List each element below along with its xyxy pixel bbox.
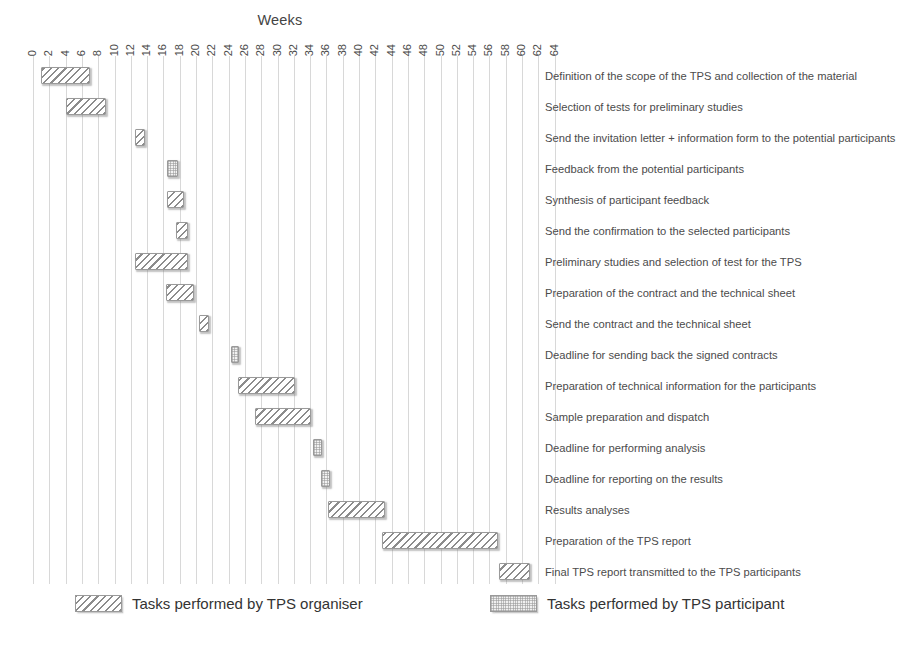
gridline-week-24 bbox=[229, 56, 230, 584]
legend-item-participant[interactable]: Tasks performed by TPS participant bbox=[490, 595, 784, 612]
x-axis-tick-16: 16 bbox=[157, 44, 168, 56]
gantt-bar[interactable] bbox=[167, 191, 183, 208]
task-label: Results analyses bbox=[545, 505, 630, 516]
gridline-week-12 bbox=[131, 56, 132, 584]
gantt-bar[interactable] bbox=[321, 470, 330, 487]
gridline-week-6 bbox=[82, 56, 83, 584]
task-label: Send the invitation letter + information… bbox=[545, 133, 895, 144]
gridline-week-58 bbox=[506, 56, 507, 584]
task-label: Preliminary studies and selection of tes… bbox=[545, 257, 802, 268]
gridline-week-30 bbox=[278, 56, 279, 584]
legend-swatch-participant bbox=[490, 595, 537, 612]
x-axis-tick-64: 64 bbox=[549, 44, 560, 56]
plot-area bbox=[0, 56, 560, 584]
x-axis-tick-40: 40 bbox=[353, 44, 364, 56]
task-label: Sample preparation and dispatch bbox=[545, 412, 709, 423]
gridline-week-54 bbox=[473, 56, 474, 584]
x-axis-tick-12: 12 bbox=[125, 44, 136, 56]
gridline-week-14 bbox=[147, 56, 148, 584]
x-axis-tick-10: 10 bbox=[109, 44, 120, 56]
x-axis-tick-50: 50 bbox=[435, 44, 446, 56]
gridline-week-2 bbox=[49, 56, 50, 584]
task-label: Send the confirmation to the selected pa… bbox=[545, 226, 790, 237]
x-axis-tick-labels: 0246810121416182022242628303234363840424… bbox=[0, 30, 560, 56]
gridline-week-18 bbox=[180, 56, 181, 584]
chart-title: Weeks bbox=[0, 12, 560, 28]
x-axis-tick-48: 48 bbox=[418, 44, 429, 56]
x-axis-tick-62: 62 bbox=[532, 44, 543, 56]
gantt-bar[interactable] bbox=[41, 67, 90, 84]
gridline-week-22 bbox=[212, 56, 213, 584]
gridline-week-62 bbox=[538, 56, 539, 584]
legend-item-organiser[interactable]: Tasks performed by TPS organiser bbox=[75, 595, 363, 612]
x-axis-tick-32: 32 bbox=[288, 44, 299, 56]
x-axis-tick-44: 44 bbox=[386, 44, 397, 56]
task-label: Synthesis of participant feedback bbox=[545, 195, 709, 206]
gridline-week-46 bbox=[408, 56, 409, 584]
gantt-bar[interactable] bbox=[166, 284, 195, 301]
gantt-bar[interactable] bbox=[231, 346, 239, 363]
task-label: Preparation of the contract and the tech… bbox=[545, 288, 795, 299]
gantt-bar[interactable] bbox=[135, 129, 146, 146]
gridline-week-8 bbox=[98, 56, 99, 584]
gantt-bar[interactable] bbox=[255, 408, 310, 425]
task-label: Send the contract and the technical shee… bbox=[545, 319, 751, 330]
gridline-week-0 bbox=[33, 56, 34, 584]
task-label: Deadline for performing analysis bbox=[545, 443, 705, 454]
gantt-bar[interactable] bbox=[176, 222, 188, 239]
x-axis-tick-58: 58 bbox=[500, 44, 511, 56]
gridline-week-32 bbox=[294, 56, 295, 584]
x-axis-tick-34: 34 bbox=[304, 44, 315, 56]
task-label: Final TPS report transmitted to the TPS … bbox=[545, 567, 801, 578]
task-label: Selection of tests for preliminary studi… bbox=[545, 102, 743, 113]
gridline-week-34 bbox=[310, 56, 311, 584]
x-axis-tick-42: 42 bbox=[369, 44, 380, 56]
gridline-week-4 bbox=[66, 56, 67, 584]
legend-swatch-organiser bbox=[75, 595, 122, 612]
gantt-bar[interactable] bbox=[167, 160, 178, 177]
gridline-week-16 bbox=[163, 56, 164, 584]
x-axis-tick-20: 20 bbox=[190, 44, 201, 56]
x-axis-tick-52: 52 bbox=[451, 44, 462, 56]
gantt-chart: Weeks 0246810121416182022242628303234363… bbox=[0, 0, 916, 651]
gridline-week-26 bbox=[245, 56, 246, 584]
x-axis-tick-38: 38 bbox=[337, 44, 348, 56]
x-axis-tick-18: 18 bbox=[174, 44, 185, 56]
gantt-bar[interactable] bbox=[66, 98, 107, 115]
task-label: Deadline for sending back the signed con… bbox=[545, 350, 778, 361]
legend-label: Tasks performed by TPS participant bbox=[547, 595, 784, 612]
chart-legend: Tasks performed by TPS organiserTasks pe… bbox=[0, 595, 916, 629]
gridline-week-28 bbox=[261, 56, 262, 584]
task-label: Deadline for reporting on the results bbox=[545, 474, 723, 485]
x-axis-tick-28: 28 bbox=[255, 44, 266, 56]
x-axis-tick-60: 60 bbox=[516, 44, 527, 56]
gantt-bar[interactable] bbox=[238, 377, 295, 394]
gridline-week-20 bbox=[196, 56, 197, 584]
x-axis-tick-24: 24 bbox=[223, 44, 234, 56]
x-axis-tick-14: 14 bbox=[141, 44, 152, 56]
x-axis-tick-30: 30 bbox=[272, 44, 283, 56]
gantt-bar[interactable] bbox=[199, 315, 209, 332]
task-label: Preparation of technical information for… bbox=[545, 381, 816, 392]
gantt-bar[interactable] bbox=[382, 532, 498, 549]
gridline-week-50 bbox=[441, 56, 442, 584]
gantt-bar[interactable] bbox=[499, 563, 530, 580]
task-label: Feedback from the potential participants bbox=[545, 164, 744, 175]
x-axis-tick-22: 22 bbox=[206, 44, 217, 56]
gridline-week-10 bbox=[115, 56, 116, 584]
gridline-week-52 bbox=[457, 56, 458, 584]
x-axis-tick-54: 54 bbox=[467, 44, 478, 56]
gridline-week-60 bbox=[522, 56, 523, 584]
legend-label: Tasks performed by TPS organiser bbox=[132, 595, 363, 612]
task-label: Preparation of the TPS report bbox=[545, 536, 691, 547]
x-axis-tick-56: 56 bbox=[483, 44, 494, 56]
x-axis-tick-46: 46 bbox=[402, 44, 413, 56]
gantt-bar[interactable] bbox=[135, 253, 188, 270]
gridline-week-44 bbox=[392, 56, 393, 584]
task-label: Definition of the scope of the TPS and c… bbox=[545, 71, 857, 82]
gridline-week-48 bbox=[424, 56, 425, 584]
task-label-column: Definition of the scope of the TPS and c… bbox=[545, 56, 916, 584]
x-axis-tick-36: 36 bbox=[320, 44, 331, 56]
gantt-bar[interactable] bbox=[313, 439, 322, 456]
gantt-bar[interactable] bbox=[328, 501, 385, 518]
